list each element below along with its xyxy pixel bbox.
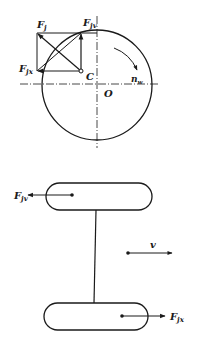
label-fjx: Fjx	[18, 63, 34, 76]
label-c: C	[86, 71, 94, 82]
axle-line	[94, 210, 96, 303]
top-wheel	[46, 183, 152, 210]
label-bottom-fjv: Fjv	[13, 190, 29, 203]
label-fjv: Fjv	[82, 17, 98, 30]
rotation-arrow	[114, 48, 137, 70]
wheel-force-diagram: Fj Fjv Fjx C O nw	[18, 16, 158, 148]
label-bottom-fjx: Fjx	[169, 311, 185, 324]
label-fj: Fj	[36, 19, 47, 32]
fj-arrow	[38, 34, 81, 71]
label-v: v	[150, 239, 156, 250]
label-o: O	[104, 88, 113, 99]
label-nw: nw	[131, 74, 144, 85]
axle-top-view-diagram: Fjv Fjx v	[13, 183, 185, 330]
diagram-canvas: Fj Fjv Fjx C O nw Fjv Fjx v	[0, 0, 203, 345]
point-c	[79, 69, 83, 73]
